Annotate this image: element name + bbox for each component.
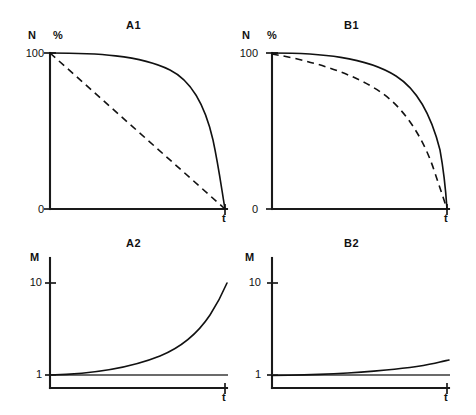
panel-a1-survival-curve-solid bbox=[50, 53, 225, 209]
panel-b2-mortality-ratio-curve bbox=[272, 360, 449, 376]
panel-b2: B2 M 10 1 t bbox=[236, 225, 476, 415]
panel-b1: B1 N % 100 0 t bbox=[236, 0, 476, 225]
panel-b1-plot bbox=[236, 0, 476, 225]
panel-b1-survival-curve-solid bbox=[272, 53, 447, 209]
panel-a2-plot bbox=[0, 225, 240, 415]
panel-b1-survival-curve-dashed bbox=[272, 54, 447, 209]
panel-a2-mortality-ratio-curve bbox=[50, 283, 227, 375]
panel-a1: A1 N % 100 0 t bbox=[0, 0, 240, 225]
panel-a1-plot bbox=[0, 0, 240, 225]
figure-container: A1 N % 100 0 t B1 N % 100 0 t bbox=[0, 0, 476, 415]
panel-a2: A2 M 10 1 t bbox=[0, 225, 240, 415]
panel-a1-survival-curve-dashed bbox=[50, 53, 225, 209]
panel-b2-plot bbox=[236, 225, 476, 415]
